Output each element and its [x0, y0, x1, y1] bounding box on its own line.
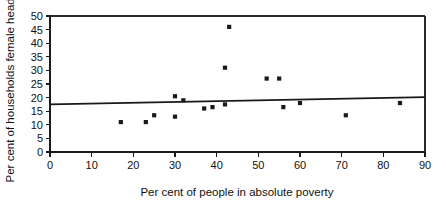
data-point-markers: [119, 25, 402, 124]
x-axis-ticks: [50, 152, 425, 157]
trend-line-group: [50, 97, 425, 104]
y-tick-label: 25: [31, 78, 43, 90]
data-point: [298, 101, 302, 105]
x-tick-label: 40: [211, 159, 223, 171]
y-tick-label: 15: [31, 105, 43, 117]
data-point: [144, 120, 148, 124]
data-point: [173, 94, 177, 98]
y-tick-label: 5: [37, 132, 43, 144]
y-tick-label: 0: [37, 146, 43, 158]
y-tick-label: 10: [31, 119, 43, 131]
y-tick-label: 40: [31, 37, 43, 49]
data-point: [398, 101, 402, 105]
data-point: [181, 98, 185, 102]
x-tick-label: 30: [169, 159, 181, 171]
x-tick-label: 80: [377, 159, 389, 171]
x-tick-label: 20: [127, 159, 139, 171]
data-point: [210, 105, 214, 109]
data-point: [227, 25, 231, 29]
y-axis-tick-labels: 05101520253035404550: [31, 10, 43, 158]
scatter-plot: 05101520253035404550 0102030405060708090…: [0, 0, 446, 209]
regression-line: [50, 97, 425, 104]
y-tick-label: 35: [31, 51, 43, 63]
y-tick-label: 20: [31, 92, 43, 104]
data-point: [277, 76, 281, 80]
x-tick-label: 0: [47, 159, 53, 171]
x-tick-label: 50: [252, 159, 264, 171]
data-point: [281, 105, 285, 109]
plot-frame: [50, 16, 425, 152]
data-point: [173, 115, 177, 119]
data-point: [223, 66, 227, 70]
x-tick-label: 70: [336, 159, 348, 171]
y-tick-label: 45: [31, 24, 43, 36]
y-tick-label: 50: [31, 10, 43, 22]
y-axis-title: Per cent of households female headed: [4, 0, 16, 182]
x-tick-label: 60: [294, 159, 306, 171]
data-point: [152, 113, 156, 117]
x-tick-label: 90: [419, 159, 431, 171]
y-tick-label: 30: [31, 64, 43, 76]
data-point: [202, 106, 206, 110]
chart-figure: 05101520253035404550 0102030405060708090…: [0, 0, 446, 209]
x-axis-title: Per cent of people in absolute poverty: [140, 186, 333, 198]
data-point: [223, 102, 227, 106]
data-point: [265, 76, 269, 80]
x-axis-tick-labels: 0102030405060708090: [47, 159, 431, 171]
x-tick-label: 10: [86, 159, 98, 171]
data-point: [119, 120, 123, 124]
data-point: [344, 113, 348, 117]
